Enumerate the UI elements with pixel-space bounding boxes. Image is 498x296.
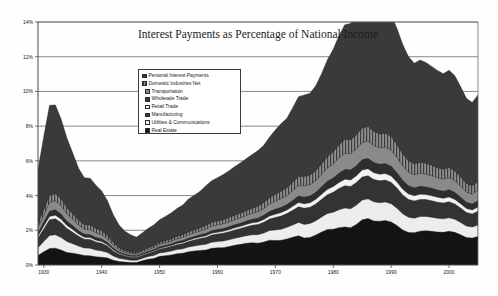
y-tick-label: 14% (23, 19, 34, 25)
x-tick-label: 1980 (328, 269, 339, 275)
legend-swatch-icon (145, 128, 150, 133)
y-tick-label: 10% (23, 88, 34, 94)
x-tick-label: 1990 (386, 269, 397, 275)
legend-swatch-icon (142, 74, 147, 79)
x-tick-label: 1960 (212, 269, 223, 275)
legend-item-label: Wholesale Trade (152, 95, 189, 103)
y-tick-label: 8% (26, 123, 34, 129)
legend-item: Retail Trade (142, 103, 237, 111)
x-axis-tick-labels: 19301940195019601970198019902000 (38, 265, 455, 275)
legend-item-label: Transportation (152, 88, 183, 96)
legend-swatch-icon (145, 113, 150, 118)
y-tick-label: 4% (26, 193, 34, 199)
y-tick-label: 6% (26, 158, 34, 164)
legend-swatch-icon (145, 97, 150, 102)
y-tick-label: 12% (23, 54, 34, 60)
x-tick-label: 1940 (96, 269, 107, 275)
y-tick-label: 0% (26, 262, 34, 268)
chart-figure: 0%2%4%6%8%10%12%14% 19301940195019601970… (0, 0, 498, 296)
y-axis-tick-labels: 0%2%4%6%8%10%12%14% (23, 19, 38, 268)
chart-legend: Personal Interest PaymentsDomestic Indus… (138, 69, 241, 134)
legend-item: Utilities & Communications (142, 119, 237, 127)
legend-item-label: Domestic Industries Net (149, 80, 201, 88)
legend-item: Transportation (142, 88, 237, 96)
chart-title: Interest Payments as Percentage of Natio… (138, 28, 378, 41)
x-tick-label: 1970 (270, 269, 281, 275)
legend-item-label: Real Estate (152, 127, 177, 135)
legend-item-label: Manufacturing (152, 111, 183, 119)
legend-item-label: Personal Interest Payments (149, 72, 209, 80)
legend-item-label: Retail Trade (152, 103, 178, 111)
x-tick-label: 2000 (443, 269, 454, 275)
x-tick-label: 1930 (38, 269, 49, 275)
legend-item: Domestic Industries Net (142, 80, 237, 88)
legend-item-label: Utilities & Communications (152, 119, 210, 127)
legend-swatch-icon (145, 89, 150, 94)
legend-swatch-icon (142, 81, 147, 86)
interest-payments-stacked-area-chart: 0%2%4%6%8%10%12%14% 19301940195019601970… (0, 0, 498, 296)
y-tick-label: 2% (26, 227, 34, 233)
x-tick-label: 1950 (154, 269, 165, 275)
legend-item: Personal Interest Payments (142, 72, 237, 80)
legend-item: Wholesale Trade (142, 95, 237, 103)
legend-item: Real Estate (142, 127, 237, 135)
legend-swatch-icon (145, 105, 150, 110)
legend-swatch-icon (145, 120, 150, 125)
legend-item: Manufacturing (142, 111, 237, 119)
